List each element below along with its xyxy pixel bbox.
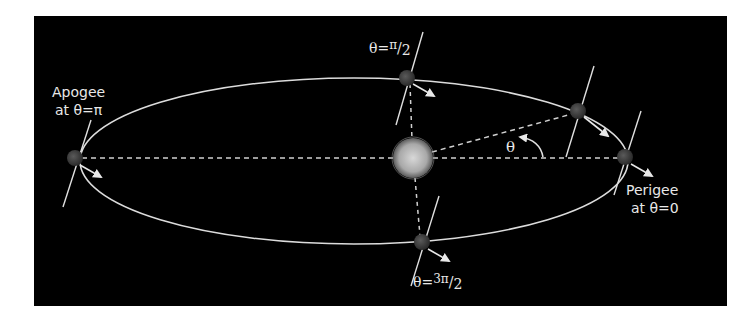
- central-star-icon: [393, 138, 433, 178]
- angle-theta-label: θ: [506, 138, 515, 156]
- bottom-theta-main: θ=: [413, 274, 433, 290]
- perigee-label-line1: Perigee: [626, 182, 678, 198]
- planet-top-icon: [399, 70, 415, 86]
- planet-theta-icon: [570, 103, 586, 119]
- bottom-theta-den: 2: [453, 276, 462, 292]
- planet-perigee-icon: [617, 149, 633, 165]
- perigee-label-line2: at θ=0: [631, 200, 679, 216]
- orbit-diagram: θ Apogee at θ=π Perigee at θ=0 θ=π/2 θ=: [0, 0, 756, 318]
- apogee-label-line1: Apogee: [52, 84, 105, 100]
- top-theta-num: π: [389, 38, 397, 52]
- planet-apogee-icon: [67, 150, 83, 166]
- bottom-theta-num: 3π: [433, 272, 449, 286]
- apogee-label-line2: at θ=π: [55, 102, 103, 118]
- top-theta-den: 2: [402, 42, 411, 58]
- planet-bottom-icon: [414, 234, 430, 250]
- top-theta-main: θ=: [369, 40, 389, 56]
